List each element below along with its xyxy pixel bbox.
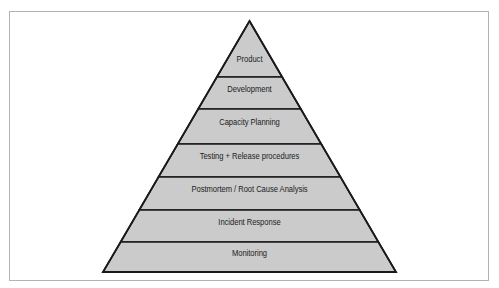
- pyramid-label-incident-response: Incident Response: [17, 219, 481, 227]
- pyramid-label-product: Product: [17, 56, 481, 64]
- pyramid-label-capacity-planning: Capacity Planning: [17, 119, 481, 127]
- pyramid-label-monitoring: Monitoring: [17, 250, 481, 258]
- pyramid-label-development: Development: [17, 86, 481, 94]
- figure-root: Product Development Capacity Planning Te…: [0, 0, 499, 288]
- pyramid-label-postmortem: Postmortem / Root Cause Analysis: [17, 186, 481, 194]
- pyramid-label-testing-release: Testing + Release procedures: [17, 153, 481, 161]
- pyramid-labels: Product Development Capacity Planning Te…: [0, 0, 499, 288]
